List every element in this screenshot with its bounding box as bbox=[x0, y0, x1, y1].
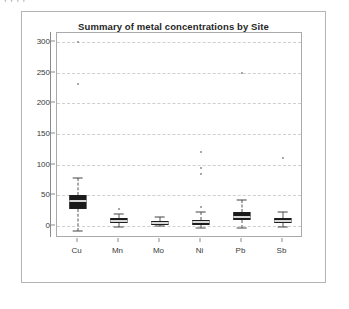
whisker-upper-Ni bbox=[200, 212, 201, 219]
outlier-Ni-3 bbox=[200, 206, 202, 208]
plot-area bbox=[56, 32, 302, 237]
boxplot-Sb[interactable] bbox=[262, 33, 303, 236]
cap-lower-Sb bbox=[277, 226, 288, 227]
x-tick-label-Mo: Mo bbox=[153, 246, 164, 255]
median-Ni bbox=[192, 221, 209, 223]
outlier-Sb-0 bbox=[282, 157, 284, 159]
outlier-Pb-0 bbox=[241, 72, 243, 74]
y-axis-labels: 050100150200250300 bbox=[22, 32, 50, 237]
median-Pb bbox=[233, 216, 250, 218]
outlier-Ni-0 bbox=[200, 151, 202, 153]
cap-upper-Pb bbox=[236, 200, 247, 201]
y-tick-label-250: 250 bbox=[37, 67, 50, 76]
cap-lower-Mo bbox=[154, 226, 165, 227]
boxplot-Ni[interactable] bbox=[180, 33, 221, 236]
x-tick-mark-Mn bbox=[117, 238, 118, 242]
x-tick-label-Pb: Pb bbox=[236, 246, 246, 255]
x-tick-mark-Mo bbox=[158, 238, 159, 242]
cap-upper-Mn bbox=[113, 213, 124, 214]
boxplot-Mn[interactable] bbox=[98, 33, 139, 236]
x-tick-label-Ni: Ni bbox=[196, 246, 204, 255]
y-tick-label-200: 200 bbox=[37, 98, 50, 107]
outlier-Cu-1 bbox=[77, 83, 79, 85]
x-tick-label-Cu: Cu bbox=[71, 246, 81, 255]
outlier-Cu-0 bbox=[77, 41, 79, 43]
outlier-Ni-2 bbox=[200, 173, 202, 175]
outlier-Mn-0 bbox=[118, 208, 120, 210]
cap-upper-Sb bbox=[277, 212, 288, 213]
x-tick-mark-Pb bbox=[240, 238, 241, 242]
median-Mo bbox=[151, 222, 168, 224]
cap-upper-Cu bbox=[72, 178, 83, 179]
outlier-Ni-1 bbox=[200, 167, 202, 169]
cap-lower-Cu bbox=[72, 230, 83, 231]
y-tick-label-300: 300 bbox=[37, 37, 50, 46]
whisker-lower-Cu bbox=[77, 209, 78, 231]
chart-title: Summary of metal concentrations by Site bbox=[22, 21, 325, 32]
cap-upper-Ni bbox=[195, 212, 206, 213]
median-Mn bbox=[110, 220, 127, 222]
x-tick-mark-Sb bbox=[281, 238, 282, 242]
cap-lower-Pb bbox=[236, 228, 247, 229]
median-Cu bbox=[69, 200, 86, 202]
cap-lower-Ni bbox=[195, 227, 206, 228]
x-tick-label-Sb: Sb bbox=[277, 246, 287, 255]
x-axis: CuMnMoNiPbSb bbox=[56, 238, 302, 258]
boxplot-Mo[interactable] bbox=[139, 33, 180, 236]
y-tick-label-50: 50 bbox=[41, 190, 50, 199]
y-tick-label-150: 150 bbox=[37, 128, 50, 137]
x-tick-mark-Ni bbox=[199, 238, 200, 242]
y-axis-line bbox=[50, 32, 51, 237]
clipped-header-text: , , , , bbox=[0, 0, 349, 9]
plot-inner bbox=[57, 33, 301, 236]
y-tick-label-100: 100 bbox=[37, 159, 50, 168]
boxplot-Cu[interactable] bbox=[57, 33, 98, 236]
x-tick-mark-Cu bbox=[76, 238, 77, 242]
median-Sb bbox=[274, 220, 291, 222]
x-tick-label-Mn: Mn bbox=[112, 246, 123, 255]
whisker-upper-Cu bbox=[77, 178, 78, 195]
boxplot-Pb[interactable] bbox=[221, 33, 262, 236]
cap-lower-Mn bbox=[113, 226, 124, 227]
whisker-upper-Pb bbox=[241, 200, 242, 212]
cap-upper-Mo bbox=[154, 217, 165, 218]
